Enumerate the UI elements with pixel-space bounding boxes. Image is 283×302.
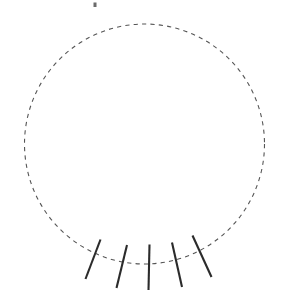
hatch-mark-3 (149, 245, 150, 291)
figure-canvas (0, 0, 283, 302)
canvas-background (0, 0, 283, 302)
stray-mark (94, 3, 97, 8)
diagram-svg (0, 0, 283, 302)
